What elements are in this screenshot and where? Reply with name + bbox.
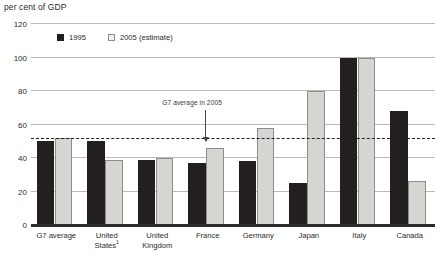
bar-2005-estimate- (55, 138, 73, 225)
bar-group (334, 24, 385, 225)
bar-1995 (340, 58, 358, 226)
bar-1995 (138, 160, 156, 225)
bar-2005-estimate- (307, 91, 325, 225)
bar-group (385, 24, 436, 225)
bar-2005-estimate- (257, 128, 275, 225)
x-tick-label: UnitedKingdom (132, 231, 183, 250)
legend-entry-2005: 2005 (estimate) (108, 33, 173, 42)
legend-swatch-1995 (57, 34, 64, 41)
x-tick-label: Canada (385, 231, 436, 241)
bar-1995 (37, 141, 55, 225)
reference-line-annotation: G7 average in 2005 (162, 99, 222, 106)
x-tick-label: Italy (334, 231, 385, 241)
annotation-arrow-icon (205, 110, 206, 137)
x-tick-label: UnitedStates1 (82, 231, 133, 250)
bar-group (284, 24, 335, 225)
y-tick-label-20: 20 (18, 187, 27, 196)
x-tick-label: G7 average (31, 231, 82, 241)
bar-group (82, 24, 133, 225)
x-axis-baseline (31, 224, 435, 227)
bar-1995 (289, 183, 307, 225)
x-axis-category-labels: G7 averageUnitedStates1UnitedKingdomFran… (31, 231, 435, 261)
bar-chart: per cent of GDP 020406080100120 G7 avera… (0, 0, 439, 263)
y-axis-tick-labels: 020406080100120 (0, 24, 27, 225)
x-tick-label: France (183, 231, 234, 241)
legend-label-2005: 2005 (estimate) (120, 33, 173, 42)
y-tick-label-100: 100 (14, 53, 27, 62)
bar-2005-estimate- (105, 160, 123, 225)
reference-line-g7-average (31, 138, 435, 139)
y-tick-label-80: 80 (18, 87, 27, 96)
bar-group (233, 24, 284, 225)
bar-1995 (239, 161, 257, 225)
bar-1995 (87, 141, 105, 225)
y-tick-label-40: 40 (18, 154, 27, 163)
bar-group (132, 24, 183, 225)
y-tick-label-120: 120 (14, 20, 27, 29)
bar-2005-estimate- (156, 158, 174, 225)
x-tick-label: Japan (284, 231, 335, 241)
y-tick-label-60: 60 (18, 120, 27, 129)
bar-2005-estimate- (358, 58, 376, 226)
plot-area (31, 24, 435, 225)
bar-2005-estimate- (408, 181, 426, 225)
bar-1995 (188, 163, 206, 225)
bar-2005-estimate- (206, 148, 224, 225)
y-tick-label-0: 0 (23, 221, 27, 230)
bar-group (183, 24, 234, 225)
legend-label-1995: 1995 (69, 33, 86, 42)
legend-entry-1995: 1995 (57, 33, 86, 42)
bar-group (31, 24, 82, 225)
legend-swatch-2005 (108, 34, 115, 41)
chart-legend: 1995 2005 (estimate) (57, 33, 173, 42)
y-axis-title: per cent of GDP (4, 2, 66, 12)
bar-1995 (390, 111, 408, 225)
x-tick-label: Germany (233, 231, 284, 241)
